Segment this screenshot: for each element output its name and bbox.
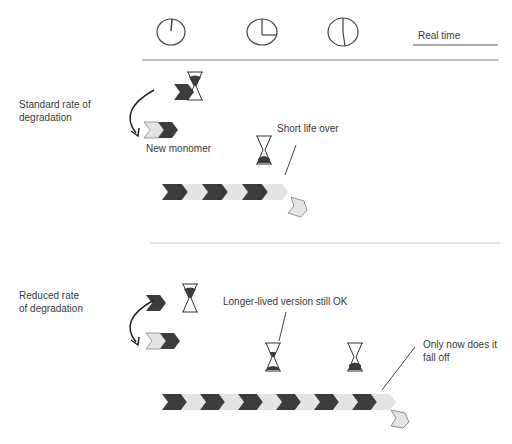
callout-line-longer-lived (279, 312, 286, 341)
clock-quarter-icon (247, 19, 277, 45)
fallen-monomer (391, 410, 409, 428)
diagram-canvas (0, 0, 512, 444)
filament-standard (162, 184, 288, 200)
real-time-label: Real time (418, 29, 460, 42)
new-monomer-label: New monomer (146, 142, 211, 155)
callout-line-short-life (285, 145, 296, 175)
callout-line-falls-off (382, 347, 415, 390)
panel-title-standard: Standard rate of degradation (19, 98, 91, 124)
hourglass-half-icon (265, 343, 281, 371)
callout-longer-lived: Longer-lived version still OK (223, 295, 348, 308)
clock-half-icon (328, 18, 358, 46)
new-monomer (146, 333, 180, 349)
fallen-monomer (288, 197, 307, 217)
panel-title-reduced: Reduced rate of degradation (19, 289, 83, 315)
hourglass-empty-icon (256, 136, 272, 164)
callout-short-life: Short life over (277, 122, 339, 135)
filament-reduced (162, 394, 396, 410)
callout-falls-off: Only now does it fall off (423, 338, 497, 364)
clock-start-icon (157, 19, 185, 45)
hourglass-full-icon (182, 284, 198, 312)
hourglass-empty-icon (347, 343, 363, 371)
new-monomer (144, 122, 178, 138)
